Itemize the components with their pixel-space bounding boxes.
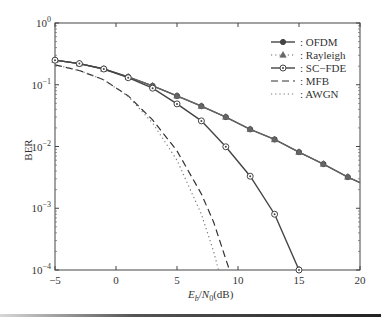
legend-label: : SC−FDE <box>300 62 347 74</box>
marker-dot <box>249 175 251 177</box>
x-tick-label: 0 <box>113 274 119 286</box>
legend-marker <box>280 65 286 71</box>
legend-label: : MFB <box>300 75 329 87</box>
x-tick-label: 20 <box>355 274 367 286</box>
y-tick-label: 100 <box>36 15 51 29</box>
x-tick-label: −5 <box>49 274 61 286</box>
data-point <box>198 118 204 124</box>
y-axis-label: BER <box>22 139 34 161</box>
legend-label: : AWGN <box>300 88 339 100</box>
x-tick-label: 5 <box>174 274 180 286</box>
data-point <box>52 57 58 63</box>
x-tick-label: 15 <box>294 274 306 286</box>
series-2 <box>52 57 302 273</box>
y-tick-label: 10−4 <box>31 262 51 276</box>
series-4 <box>55 65 218 270</box>
series-line <box>55 60 299 270</box>
y-tick-label: 10−3 <box>31 200 51 214</box>
marker-dot <box>152 87 154 89</box>
legend-item: : AWGN <box>271 88 339 100</box>
data-point <box>272 211 278 217</box>
data-point <box>223 144 229 150</box>
data-point <box>150 85 156 91</box>
marker-dot <box>298 269 300 271</box>
data-point <box>76 61 82 67</box>
marker-dot <box>103 68 105 70</box>
y-tick-label: 10−1 <box>31 77 51 91</box>
x-label-unit: (dB) <box>213 288 234 301</box>
marker-dot <box>54 59 56 61</box>
series-line <box>55 65 218 270</box>
legend-label: : Rayleigh <box>300 49 346 61</box>
marker-dot <box>274 213 276 215</box>
y-tick-label: 10−2 <box>31 139 51 153</box>
data-point <box>247 173 253 179</box>
marker-dot <box>282 67 284 69</box>
legend-item: : MFB <box>271 75 329 87</box>
data-point <box>296 267 302 273</box>
marker-dot <box>176 103 178 105</box>
legend-item: : Rayleigh <box>271 49 346 61</box>
marker-dot <box>200 120 202 122</box>
series-3 <box>55 65 229 270</box>
data-point <box>101 66 107 72</box>
legend-marker <box>280 52 286 58</box>
series-line <box>55 65 229 270</box>
marker-dot <box>225 146 227 148</box>
marker-dot <box>127 77 129 79</box>
legend-label: : OFDM <box>300 36 338 48</box>
data-point <box>174 101 180 107</box>
legend-item: : SC−FDE <box>271 62 347 74</box>
ber-chart: −505101520 10010−110−210−310−4 : OFDM: R… <box>0 0 381 318</box>
data-point <box>125 75 131 81</box>
legend-marker <box>280 39 285 44</box>
x-tick-label: 10 <box>233 274 245 286</box>
marker-dot <box>78 63 80 65</box>
bottom-rule <box>0 314 381 317</box>
legend-item: : OFDM <box>271 36 338 48</box>
x-axis-label: Eb/N0(dB) <box>187 288 234 303</box>
legend: : OFDM: Rayleigh: SC−FDE: MFB: AWGN <box>271 36 347 100</box>
